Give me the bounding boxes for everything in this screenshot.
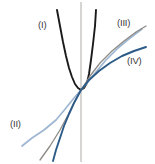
curve-label-IV: (IV) bbox=[127, 56, 142, 66]
curve-label-I: (I) bbox=[38, 20, 46, 30]
curve-comparison-figure: (I) (II) (III) (IV) bbox=[0, 0, 155, 164]
curve-label-II: (II) bbox=[10, 119, 21, 129]
plot-canvas bbox=[0, 0, 155, 164]
curve-label-III: (III) bbox=[117, 18, 130, 28]
